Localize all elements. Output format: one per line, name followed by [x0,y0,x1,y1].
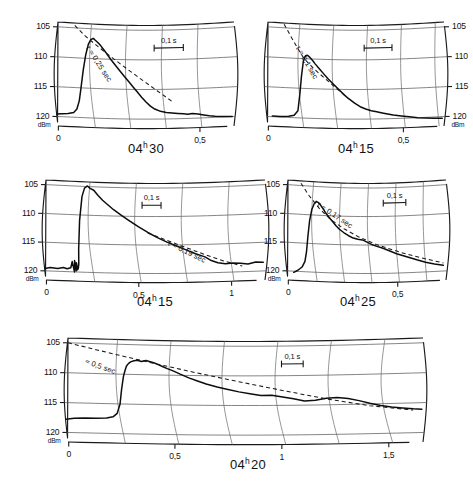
scale-bar: 0,1 s [154,36,183,51]
y-tick-label: 120 [266,265,280,275]
gridline-vertical [328,341,339,444]
gridline-vertical [367,184,372,283]
panel-title-hour-superscript: h [353,140,358,150]
y-tick-label: 105 [24,179,38,189]
x-tick-label: 0 [56,133,61,143]
scale-bar-label: 0,1 s [370,36,386,45]
panel-title-hour-superscript: h [143,140,148,150]
scale-bar-label: 0,1 s [387,191,403,200]
y-axis-unit-label: dBm [38,121,51,128]
panel-title-hour-superscript: h [355,293,360,303]
gridline-vertical [135,183,142,282]
panel-title-hour: 04 [340,294,355,309]
panel-title-minute: 20 [251,457,266,472]
x-tick-label: 0 [66,449,71,459]
y-tick-label: 110 [34,51,48,61]
plot-frame [64,338,427,445]
y-tick-label: 115 [22,236,36,246]
y-tick-label: 115 [455,81,469,91]
plot-frame [54,22,238,129]
gridline-vertical [332,25,337,128]
y-tick-label: 110 [44,367,58,377]
gridline-vertical [401,24,406,127]
gridline-horizontal [55,57,238,60]
gridline-vertical [312,182,318,282]
scale-bar: 0,1 s [364,36,392,51]
gridline-horizontal [267,27,444,30]
y-axis-unit-label: dBm [48,437,61,444]
gridline-horizontal [67,343,423,346]
signal-trace [294,201,444,272]
scale-bar-label: 0,1 s [285,352,301,361]
panel-04h30-title: 04h30 [86,140,206,156]
panel-04h25-title: 04h25 [298,293,418,309]
x-tick-label: 1,5 [383,450,395,460]
x-tick-label: 0 [44,287,49,297]
y-axis-unit-label: dBm [268,275,281,282]
fit-curve [301,183,444,263]
y-tick-label: 110 [455,51,469,61]
panel-title-minute: 30 [149,141,164,156]
panel-title-minute: 15 [158,294,173,309]
gridline-horizontal [43,213,269,216]
x-tick-label: 1 [229,288,234,298]
gridline-vertical [435,23,439,127]
y-tick-label: 115 [34,81,48,91]
gridline-vertical [169,341,179,444]
y-tick-label: 105 [46,337,60,347]
y-tick-label: 105 [452,21,466,31]
panel-title-hour: 04 [338,141,353,156]
tau-annotation: τ ≈ 0,25 sec [84,44,114,84]
y-axis-unit-label: dBm [452,121,465,128]
panel-title-minute: 15 [359,141,374,156]
gridline-vertical [222,341,232,444]
gridlines [284,182,449,283]
tau-annotation: τ ≈ 0,19 sec [166,238,207,264]
gridline-horizontal [54,87,237,90]
x-tick-label: 0 [266,133,271,143]
y-tick-label: 120 [24,265,38,275]
scale-bar-label: 0,1 s [144,193,160,202]
signal-trace [57,38,232,116]
y-tick-label: 115 [44,397,58,407]
gridline-vertical [423,182,427,281]
y-tick-label: 120 [453,111,467,121]
gridline-horizontal [287,185,446,188]
y-tick-label: 110 [22,208,36,218]
x-tick-label: 0,5 [169,451,181,461]
y-tick-label: 120 [46,427,60,437]
panel-04h20-title: 04h20 [188,456,308,472]
panel-title-hour: 04 [230,457,245,472]
gridline-horizontal [57,27,234,30]
panel-04h15-top-title: 04h15 [296,140,416,156]
gridline-vertical [228,182,234,281]
y-tick-label: 120 [36,111,50,121]
gridline-horizontal [42,242,268,245]
panel-title-hour-superscript: h [245,456,250,466]
gridline-vertical [197,24,202,127]
panel-04h20-plot: 105110115120dBm00,511,50,1 s≈ 0,5 sec [34,326,435,476]
y-tick-label: 105 [266,179,280,189]
scale-bar: 0,1 s [142,193,161,208]
panel-title-hour: 04 [137,294,152,309]
panel-title-hour: 04 [128,141,143,156]
gridline-horizontal [65,373,427,376]
gridline-horizontal [45,185,265,188]
gridline-vertical [125,25,130,128]
x-tick-label: 0 [286,287,291,297]
gridline-vertical [381,339,393,443]
y-tick-label: 115 [264,236,278,246]
gridline-vertical [88,182,95,282]
panel-title-hour-superscript: h [152,293,157,303]
gridline-horizontal [57,116,235,119]
panel-title-minute: 25 [361,294,376,309]
gridline-horizontal [287,271,447,274]
y-axis-unit-label: dBm [26,275,39,282]
gridline-horizontal [285,213,450,216]
gridline-vertical [181,183,187,282]
scale-bar: 0,1 s [383,191,406,206]
panel-04h15-top-plot: 105110115120dBm00,50,1 sτ ≈ 0,1 sec [256,10,473,160]
scale-bar: 0,1 s [281,352,303,367]
panel-04h30-plot: 105110115120dBm00,50,1 sτ ≈ 0,25 sec [24,10,246,160]
